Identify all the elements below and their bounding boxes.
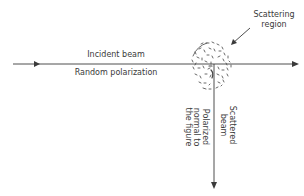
scattering-region-cloud-icon — [192, 42, 231, 89]
scattering-pointer-line — [233, 28, 250, 43]
scattering-region-label-line2: region — [250, 20, 298, 29]
scattered-beam-label: Scattered beam — [219, 100, 236, 150]
scattered-beam-label-line1: Scattered — [228, 100, 237, 150]
polarization-label: Polarized normal to the figure — [184, 100, 210, 154]
random-polarization-label: Random polarization — [62, 68, 170, 77]
polarization-label-line3: the figure — [184, 100, 193, 154]
scattered-beam-label-line2: beam — [219, 100, 228, 150]
polarization-label-line1: Polarized — [201, 100, 210, 154]
scattered-beam-arrow-icon — [211, 182, 217, 189]
polarization-label-line2: normal to — [192, 100, 201, 154]
scattering-region-label-line1: Scattering — [250, 10, 298, 19]
diagram-canvas — [0, 0, 304, 196]
beam-end-arrow-icon — [292, 61, 299, 67]
incident-direction-arrow-icon — [34, 61, 40, 67]
incident-beam-label: Incident beam — [68, 50, 164, 59]
